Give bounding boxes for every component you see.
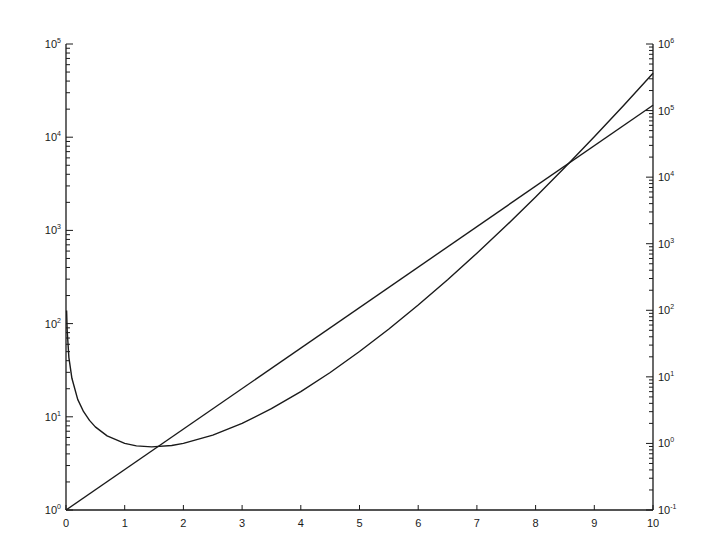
x-tick-label: 4 (298, 517, 304, 529)
tick-labels: 01234567891010010110210310410510-1100101… (45, 37, 677, 529)
right-y-tick-label: 104 (658, 170, 674, 183)
right-y-tick-label: 101 (658, 370, 674, 383)
x-tick-label: 7 (474, 517, 480, 529)
x-tick-label: 8 (533, 517, 539, 529)
x-tick-label: 10 (647, 517, 659, 529)
right-y-tick-label: 103 (658, 237, 674, 250)
series-gammax-curve (67, 73, 653, 447)
right-y-tick-label: 100 (658, 436, 674, 449)
axes (66, 44, 653, 510)
left-y-tick-label: 101 (45, 410, 61, 423)
x-tick-label: 1 (122, 517, 128, 529)
left-y-tick-label: 102 (45, 317, 61, 330)
right-y-tick-label: 105 (658, 104, 674, 117)
series-expx-curve (66, 105, 653, 510)
right-y-tick-label: 10-1 (658, 503, 677, 516)
left-y-tick-label: 103 (45, 223, 61, 236)
right-y-tick-label: 102 (658, 303, 674, 316)
left-y-tick-label: 104 (45, 130, 61, 143)
data-series (66, 73, 653, 510)
dual-log-axis-chart: 01234567891010010110210310410510-1100101… (0, 0, 710, 557)
x-tick-label: 0 (63, 517, 69, 529)
x-tick-label: 9 (591, 517, 597, 529)
x-tick-label: 3 (239, 517, 245, 529)
right-y-tick-label: 106 (658, 37, 674, 50)
x-tick-label: 6 (415, 517, 421, 529)
x-tick-label: 2 (180, 517, 186, 529)
x-tick-label: 5 (356, 517, 362, 529)
tick-marks (66, 44, 653, 510)
left-y-tick-label: 100 (45, 503, 61, 516)
left-y-tick-label: 105 (45, 37, 61, 50)
